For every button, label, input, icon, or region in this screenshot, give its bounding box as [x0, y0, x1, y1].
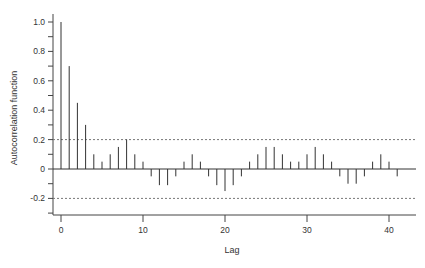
- x-tick-label: 20: [220, 225, 230, 235]
- y-tick-label: 0.2: [33, 135, 45, 145]
- x-tick-label: 30: [302, 225, 312, 235]
- x-tick-label: 0: [59, 225, 64, 235]
- x-tick-label: 40: [384, 225, 394, 235]
- y-tick-label: 0: [40, 164, 45, 174]
- x-axis: 010203040: [53, 215, 416, 235]
- y-tick-label: 0.6: [33, 76, 45, 86]
- x-axis-label: Lag: [224, 245, 239, 255]
- acf-bars: [61, 22, 397, 191]
- x-tick-label: 10: [138, 225, 148, 235]
- y-axis-label: Autocorrelation function: [9, 71, 19, 166]
- y-tick-label: 0.4: [33, 105, 45, 115]
- y-tick-label: 1.0: [33, 17, 45, 27]
- y-axis: 1.00.80.60.40.20-0.2: [30, 14, 53, 215]
- y-tick-label: -0.2: [30, 193, 45, 203]
- acf-chart: 1.00.80.60.40.20-0.2 010203040 Autocorre…: [0, 0, 425, 268]
- y-tick-label: 0.8: [33, 46, 45, 56]
